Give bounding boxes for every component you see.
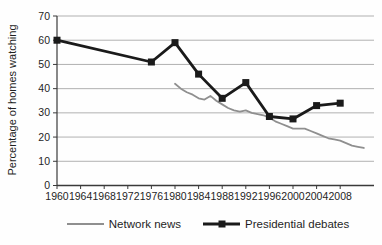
y-tick-label: 50: [38, 58, 50, 70]
y-tick-label: 10: [38, 155, 50, 167]
data-point-marker: [266, 113, 273, 120]
chart-legend: Network news Presidential debates: [0, 218, 382, 230]
y-tick-label: 40: [38, 82, 50, 94]
x-tick-label: 1960: [45, 190, 69, 202]
data-point-marker: [290, 115, 297, 122]
debates-line-marker-icon: [203, 220, 240, 229]
data-point-marker: [54, 37, 61, 44]
x-tick-label: 2008: [329, 190, 353, 202]
series-line: [57, 40, 340, 119]
x-tick-label: 1988: [211, 190, 235, 202]
data-point-marker: [242, 79, 249, 86]
data-point-marker: [313, 102, 320, 109]
network-news-line-icon: [67, 220, 104, 229]
y-axis-title: Percentage of homes watching: [6, 24, 18, 175]
x-tick-label: 2004: [305, 190, 329, 202]
x-tick-label: 1976: [140, 190, 164, 202]
legend-label-network-news: Network news: [109, 218, 181, 230]
chart-figure: 010203040506070 196019641968197219761980…: [0, 0, 382, 245]
gridlines: [57, 16, 374, 161]
y-tick-label: 60: [38, 34, 50, 46]
x-tick-label: 1980: [163, 190, 187, 202]
data-point-marker: [195, 71, 202, 78]
x-tick-label: 1964: [69, 190, 93, 202]
x-tick-label: 1992: [234, 190, 258, 202]
legend-item-network-news: Network news: [67, 218, 181, 230]
x-tick-label: 2000: [281, 190, 305, 202]
legend-label-presidential-debates: Presidential debates: [245, 218, 349, 230]
legend-item-presidential-debates: Presidential debates: [203, 218, 349, 230]
x-axis: 1960196419681972197619801984198819921996…: [45, 186, 374, 203]
y-tick-label: 20: [38, 131, 50, 143]
y-tick-label: 70: [38, 10, 50, 22]
data-point-marker: [337, 100, 344, 107]
y-tick-label: 30: [38, 106, 50, 118]
x-tick-label: 1968: [93, 190, 117, 202]
x-tick-label: 1984: [187, 190, 211, 202]
data-point-marker: [148, 59, 155, 66]
data-point-marker: [219, 95, 226, 102]
series-presidential-debates: [54, 37, 344, 123]
chart-svg: 010203040506070 196019641968197219761980…: [0, 0, 382, 245]
x-tick-label: 1972: [116, 190, 140, 202]
x-tick-label: 1996: [258, 190, 282, 202]
data-point-marker: [172, 39, 179, 46]
